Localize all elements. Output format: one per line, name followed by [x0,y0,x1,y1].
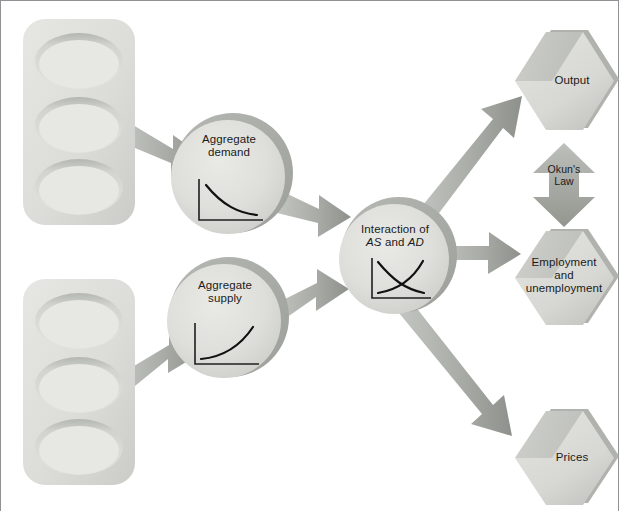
diagram-svg [1,1,619,511]
input-stack-top [23,19,135,225]
interaction-node [339,197,457,314]
input-stack-top-well-1 [35,33,123,89]
employment-hexagon [515,229,619,325]
output-hexagon [515,30,619,130]
input-stack-bottom-well-1 [35,293,123,349]
input-stack-top-well-2 [35,97,123,153]
aggregate-supply-node [167,257,289,378]
input-stack-top-well-3 [35,159,123,215]
arrow-interaction-to-prices [399,301,512,436]
aggregate-demand-node [171,113,293,234]
input-stack-bottom [23,279,135,485]
okuns-law-connector [533,143,595,227]
prices-hexagon [515,409,619,505]
input-stack-bottom-well-2 [35,357,123,413]
diagram-canvas: Aggregatedemand Aggregatesupply Interact… [0,0,619,511]
input-stack-bottom-well-3 [35,419,123,475]
